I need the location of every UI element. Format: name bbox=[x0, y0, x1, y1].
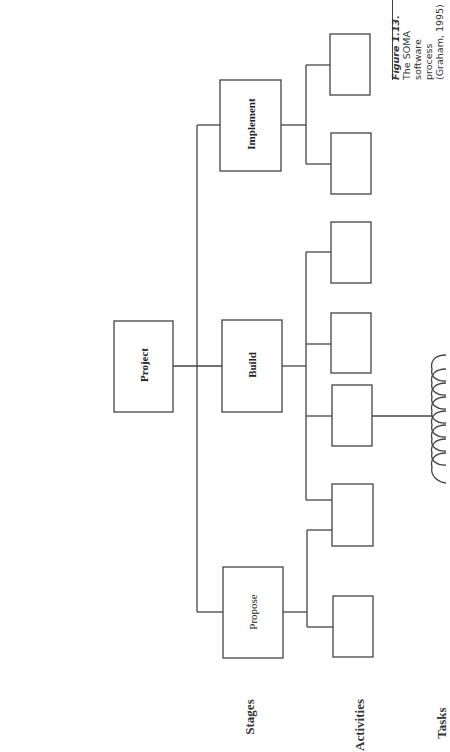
implement-activity-1 bbox=[330, 34, 370, 95]
propose-label: Propose bbox=[247, 586, 259, 638]
tasks-row-label: Tasks bbox=[434, 701, 450, 745]
implement-label: Implement bbox=[245, 94, 257, 154]
caption-line: (Graham, 1995) bbox=[434, 0, 445, 80]
stages-row-label: Stages bbox=[242, 692, 258, 742]
build-activity-3 bbox=[332, 385, 372, 446]
project-label: Project bbox=[138, 339, 150, 391]
implement-activity-2 bbox=[331, 133, 371, 194]
build-activity-2 bbox=[331, 313, 371, 373]
activities-row-label: Activities bbox=[352, 690, 368, 752]
build-activity-1 bbox=[331, 222, 371, 283]
caption-title: Figure 1.13. bbox=[390, 0, 401, 80]
propose-activity-2 bbox=[332, 484, 373, 546]
figure-caption: Figure 1.13. The SOMA software process (… bbox=[388, 0, 446, 80]
caption-line: The SOMA bbox=[401, 0, 412, 80]
caption-line: software process bbox=[412, 0, 434, 80]
propose-activity-1 bbox=[333, 596, 373, 657]
build-activity-4 bbox=[332, 484, 373, 546]
task-ellipses bbox=[432, 355, 446, 483]
build-label: Build bbox=[246, 339, 258, 391]
